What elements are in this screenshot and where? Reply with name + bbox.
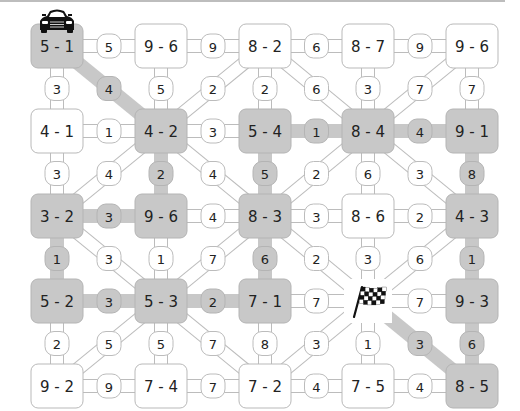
road-cost-badge[interactable]: 3 [45,162,69,186]
node-4-1[interactable]: 5 - 2 [31,279,83,323]
road-cost-badge[interactable]: 5 [149,332,173,356]
road-cost-badge[interactable]: 4 [97,77,121,101]
road-cost-badge[interactable]: 7 [201,332,225,356]
road-cost-badge[interactable]: 2 [305,247,329,271]
node-5-5[interactable]: 8 - 5 [446,364,498,408]
node-3-5[interactable]: 4 - 3 [446,194,498,238]
road-cost-badge[interactable]: 3 [97,247,121,271]
road-cost-badge[interactable]: 5 [97,332,121,356]
road-cost-badge[interactable]: 6 [305,77,329,101]
road-cost-badge[interactable]: 2 [408,204,432,228]
road-cost-badge[interactable]: 9 [408,34,432,58]
badge-value: 7 [416,295,424,310]
node-2-3[interactable]: 5 - 4 [239,109,291,153]
road-cost-badge[interactable]: 4 [201,204,225,228]
road-cost-badge[interactable]: 2 [201,289,225,313]
node-2-5[interactable]: 9 - 1 [446,109,498,153]
node-3-2[interactable]: 9 - 6 [135,194,187,238]
badge-value: 5 [105,40,113,55]
road-cost-badge[interactable]: 2 [253,77,277,101]
road-cost-badge[interactable]: 1 [356,332,380,356]
road-cost-badge[interactable]: 7 [408,289,432,313]
road-cost-badge[interactable]: 3 [97,289,121,313]
road-cost-badge[interactable]: 1 [45,247,69,271]
node-2-1[interactable]: 4 - 1 [31,109,83,153]
road-cost-badge[interactable]: 5 [253,162,277,186]
road-cost-badge[interactable]: 2 [149,162,173,186]
node-1-3[interactable]: 8 - 2 [239,24,291,68]
road-cost-badge[interactable]: 3 [45,77,69,101]
node-label: 4 - 1 [40,123,74,141]
road-cost-badge[interactable]: 8 [253,332,277,356]
road-cost-badge[interactable]: 6 [253,247,277,271]
node-3-3[interactable]: 8 - 3 [239,194,291,238]
node-3-4[interactable]: 8 - 6 [342,194,394,238]
road-cost-badge[interactable]: 6 [356,162,380,186]
badge-value: 1 [312,125,320,140]
node-label: 8 - 3 [248,208,282,226]
road-cost-badge[interactable]: 4 [201,162,225,186]
node-4-5[interactable]: 9 - 3 [446,279,498,323]
road-cost-badge[interactable]: 3 [305,204,329,228]
road-cost-badge[interactable]: 6 [460,332,484,356]
road-cost-badge[interactable]: 7 [201,374,225,398]
badge-value: 3 [209,125,217,140]
road-cost-badge[interactable]: 7 [305,289,329,313]
badge-value: 6 [261,252,269,267]
road-cost-badge[interactable]: 2 [45,332,69,356]
road-cost-badge[interactable]: 3 [201,119,225,143]
node-1-1[interactable]: 5 - 1 [31,24,83,68]
node-label: 7 - 5 [351,378,385,396]
badge-value: 1 [468,252,476,267]
puzzle-board: 5969131434323277974435237325681163125816… [0,0,520,411]
node-1-2[interactable]: 9 - 6 [135,24,187,68]
road-cost-badge[interactable]: 6 [408,247,432,271]
node-1-5[interactable]: 9 - 6 [446,24,498,68]
node-5-4[interactable]: 7 - 5 [342,364,394,408]
road-cost-badge[interactable]: 1 [149,247,173,271]
road-cost-badge[interactable]: 4 [97,162,121,186]
road-cost-badge[interactable]: 7 [460,77,484,101]
node-5-2[interactable]: 7 - 4 [135,364,187,408]
road-cost-badge[interactable]: 1 [97,119,121,143]
road-cost-badge[interactable]: 3 [408,162,432,186]
node-2-4[interactable]: 8 - 4 [342,109,394,153]
road-cost-badge[interactable]: 3 [408,332,432,356]
badge-value: 4 [105,82,113,97]
road-cost-badge[interactable]: 5 [149,77,173,101]
node-4-2[interactable]: 5 - 3 [135,279,187,323]
badge-value: 2 [312,252,320,267]
road-cost-badge[interactable]: 5 [97,34,121,58]
road-cost-badge[interactable]: 2 [201,77,225,101]
road-cost-badge[interactable]: 4 [408,119,432,143]
node-label: 9 - 6 [144,38,178,56]
road-cost-badge[interactable]: 9 [201,34,225,58]
road-cost-badge[interactable]: 1 [305,119,329,143]
road-cost-badge[interactable]: 4 [305,374,329,398]
road-cost-badge[interactable]: 2 [305,162,329,186]
node-5-1[interactable]: 9 - 2 [31,364,83,408]
road-cost-badge[interactable]: 3 [97,204,121,228]
badge-value: 7 [312,295,320,310]
road-cost-badge[interactable]: 1 [460,247,484,271]
road-cost-badge[interactable]: 8 [460,162,484,186]
badge-value: 3 [312,337,320,352]
node-3-1[interactable]: 3 - 2 [31,194,83,238]
road-cost-badge[interactable]: 9 [97,374,121,398]
node-label: 8 - 4 [351,123,385,141]
node-1-4[interactable]: 8 - 7 [342,24,394,68]
node-4-3[interactable]: 7 - 1 [239,279,291,323]
badge-value: 3 [105,252,113,267]
node-5-3[interactable]: 7 - 2 [239,364,291,408]
badge-value: 3 [105,210,113,225]
badge-value: 6 [312,40,320,55]
node-label: 8 - 7 [351,38,385,56]
road-cost-badge[interactable]: 3 [356,247,380,271]
road-cost-badge[interactable]: 7 [201,247,225,271]
road-cost-badge[interactable]: 3 [305,332,329,356]
road-cost-badge[interactable]: 3 [356,77,380,101]
node-2-2[interactable]: 4 - 2 [135,109,187,153]
road-cost-badge[interactable]: 7 [408,77,432,101]
road-cost-badge[interactable]: 4 [408,374,432,398]
road-cost-badge[interactable]: 6 [305,34,329,58]
